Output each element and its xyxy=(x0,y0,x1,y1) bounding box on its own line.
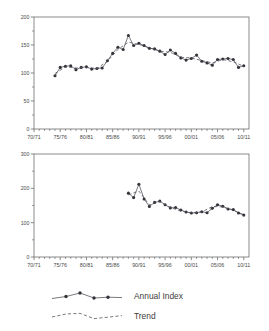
data-point-marker xyxy=(221,205,224,208)
data-point-marker xyxy=(59,66,62,69)
top-chart-svg: 05010015020070/7175/7680/8185/8690/9195/… xyxy=(0,0,269,150)
x-tick-label: 90/91 xyxy=(132,262,146,268)
data-point-marker xyxy=(164,53,167,56)
data-point-marker xyxy=(85,65,88,68)
data-point-marker xyxy=(132,44,135,47)
data-point-marker xyxy=(211,64,214,67)
y-tick-label: 0 xyxy=(27,126,30,132)
data-point-marker xyxy=(237,66,240,69)
x-tick-label: 85/86 xyxy=(106,134,120,140)
x-tick-label: 70/71 xyxy=(27,262,41,268)
legend-annual-index-marker xyxy=(92,296,95,299)
chart-panel-bottom: 010020030070/7175/7680/8185/8690/9195/96… xyxy=(0,150,269,280)
data-point-marker xyxy=(127,34,130,37)
data-point-marker xyxy=(122,48,125,51)
x-tick-label: 00/01 xyxy=(185,262,199,268)
x-tick-label: 85/86 xyxy=(106,262,120,268)
legend-annual-index-line xyxy=(52,293,122,299)
x-tick-label: 00/01 xyxy=(185,134,199,140)
data-point-marker xyxy=(242,64,245,67)
x-tick-label: 95/96 xyxy=(158,134,172,140)
data-point-marker xyxy=(206,211,209,214)
data-point-marker xyxy=(143,197,146,200)
x-tick-label: 95/96 xyxy=(158,262,172,268)
legend-annual-index-marker xyxy=(106,296,109,299)
chart-panel-top: 05010015020070/7175/7680/8185/8690/9195/… xyxy=(0,0,269,150)
x-tick-label: 05/06 xyxy=(211,134,225,140)
y-tick-label: 200 xyxy=(21,14,30,20)
y-tick-label: 300 xyxy=(21,151,30,157)
data-point-marker xyxy=(185,59,188,62)
data-point-marker xyxy=(226,57,229,60)
data-point-marker xyxy=(179,56,182,59)
x-tick-label: 80/81 xyxy=(80,134,94,140)
data-point-marker xyxy=(137,183,140,186)
legend-svg: Annual IndexTrend xyxy=(0,282,269,331)
plot-frame xyxy=(34,17,249,129)
legend-annual-index-marker xyxy=(64,295,67,298)
x-tick-label: 80/81 xyxy=(80,262,94,268)
data-point-marker xyxy=(216,203,219,206)
data-point-marker xyxy=(148,205,151,208)
y-tick-label: 0 xyxy=(27,254,30,260)
data-point-marker xyxy=(74,68,77,71)
data-point-marker xyxy=(174,52,177,55)
legend-annual-index-marker xyxy=(78,291,81,294)
data-point-marker xyxy=(53,74,56,77)
data-point-marker xyxy=(232,58,235,61)
x-tick-label: 75/76 xyxy=(53,262,67,268)
x-tick-label: 75/76 xyxy=(53,134,67,140)
annual-index-series-line xyxy=(55,35,244,75)
legend-label-trend: Trend xyxy=(134,311,156,321)
chart-figure: 05010015020070/7175/7680/8185/8690/9195/… xyxy=(0,0,269,331)
data-point-marker xyxy=(132,196,135,199)
data-point-marker xyxy=(116,46,119,49)
legend-label-annual-index: Annual Index xyxy=(134,291,184,301)
y-tick-label: 200 xyxy=(21,185,30,191)
data-point-marker xyxy=(195,54,198,57)
x-tick-label: 70/71 xyxy=(27,134,41,140)
x-tick-label: 10/11 xyxy=(237,262,250,268)
data-point-marker xyxy=(69,64,72,67)
bottom-chart-svg: 010020030070/7175/7680/8185/8690/9195/96… xyxy=(0,150,269,280)
y-tick-label: 150 xyxy=(21,42,30,48)
y-tick-label: 100 xyxy=(21,70,30,76)
chart-legend: Annual IndexTrend xyxy=(0,282,269,331)
x-tick-label: 90/91 xyxy=(132,134,146,140)
data-point-marker xyxy=(101,66,104,69)
data-point-marker xyxy=(169,48,172,51)
x-tick-label: 10/11 xyxy=(237,134,250,140)
y-tick-label: 100 xyxy=(21,220,30,226)
x-tick-label: 05/06 xyxy=(211,262,225,268)
legend-trend-line xyxy=(52,313,122,318)
y-tick-label: 50 xyxy=(24,98,30,104)
